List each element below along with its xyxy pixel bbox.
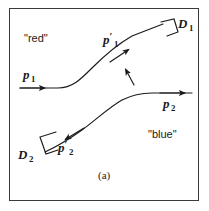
region-label-red: "red"	[24, 33, 48, 44]
detector-d1-letter: D	[178, 16, 187, 31]
momentum-label-p2-prime: p′2	[58, 140, 73, 157]
figure-caption: (a)	[98, 170, 110, 181]
figure-panel-a: "red" "blue" D1 D2 p1 p2 p′1 p′2 (a)	[0, 0, 209, 211]
detector-d2-letter: D	[18, 147, 27, 162]
momentum-p2-subscript: 2	[170, 103, 176, 113]
momentum-label-p2: p2	[163, 97, 175, 113]
momentum-p1-prime-subscript: 1	[112, 39, 118, 49]
momentum-label-p1: p1	[23, 68, 35, 84]
momentum-p1-letter: p	[23, 67, 30, 82]
momentum-p2-prime-subscript: 2	[67, 147, 73, 157]
detector-label-d2: D2	[18, 148, 33, 164]
detector-d1-subscript: 1	[187, 23, 193, 33]
momentum-p1-subscript: 1	[30, 74, 36, 84]
region-label-blue: "blue"	[148, 129, 177, 140]
detector-d2-subscript: 2	[27, 154, 33, 164]
momentum-label-p1-prime: p′1	[103, 32, 118, 49]
momentum-p2-letter: p	[163, 96, 170, 111]
detector-label-d1: D1	[178, 17, 193, 33]
